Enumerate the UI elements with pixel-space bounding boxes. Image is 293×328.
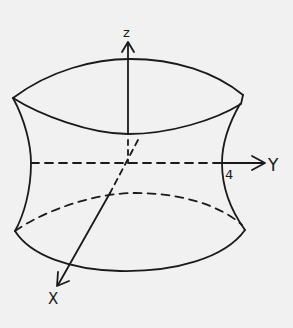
y-axis-label: Y xyxy=(267,155,279,175)
hyperboloid-drawing: z Y X 4 xyxy=(0,0,293,328)
bottom-ellipse-back xyxy=(15,193,242,231)
x-axis-label: X xyxy=(48,290,58,308)
bottom-ellipse-front xyxy=(15,230,245,271)
left-profile xyxy=(13,98,31,231)
radius-label: 4 xyxy=(225,167,233,182)
z-axis-label: z xyxy=(123,25,130,40)
x-axis-hidden xyxy=(110,140,138,193)
diagram-canvas: z Y X 4 xyxy=(0,0,293,328)
